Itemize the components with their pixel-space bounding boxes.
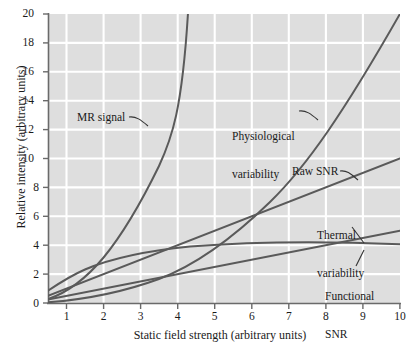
x-tick-label-6: 6	[242, 310, 262, 322]
x-tick-label-7: 7	[279, 310, 299, 322]
chart-figure: 0 2 4 6 8 10 12 14 16 18 20 1 2 3 4 5 6 …	[0, 0, 415, 349]
x-tick-label-4: 4	[168, 310, 188, 322]
x-tick-label-3: 3	[131, 310, 151, 322]
x-tick-label-2: 2	[94, 310, 114, 322]
series-label-functional-snr: Functional SNR	[325, 264, 374, 349]
series-label-physiological-variability-line1: Physiological	[232, 130, 295, 143]
series-label-functional-snr-line1: Functional	[325, 290, 374, 303]
series-label-thermal-variability-line1: Thermal	[317, 229, 364, 242]
x-tick-label-10: 10	[390, 310, 410, 322]
y-axis-title: Relative intensity (arbitrary units)	[15, 2, 28, 292]
x-tick-label-1: 1	[57, 310, 77, 322]
series-label-physiological-variability: Physiological variability	[232, 104, 295, 207]
series-label-physiological-variability-line2: variability	[232, 168, 295, 181]
series-label-raw-snr: Raw SNR	[292, 165, 338, 177]
y-tick-label-0: 0	[19, 297, 39, 309]
y-axis-ticks	[43, 14, 48, 303]
series-label-mr-signal: MR signal	[77, 111, 125, 123]
x-tick-label-5: 5	[205, 310, 225, 322]
series-label-functional-snr-line2: SNR	[325, 328, 374, 341]
